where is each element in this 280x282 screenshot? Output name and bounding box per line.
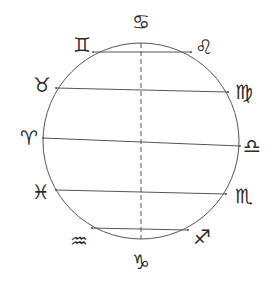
chord-taurus-virgo	[56, 88, 228, 92]
cancer-icon: ♋︎	[132, 10, 150, 34]
pisces-icon: ♓︎	[32, 180, 50, 204]
aquarius-icon: ♒︎	[70, 229, 88, 253]
chord-aquarius-sagittarius	[92, 228, 188, 230]
leo-icon: ♌︎	[195, 35, 213, 59]
chord-endpoint	[187, 229, 189, 231]
chord-endpoint	[225, 193, 227, 195]
capricorn-icon: ♑︎	[132, 250, 150, 274]
gemini-icon: ♊︎	[73, 33, 91, 57]
chord-endpoint	[55, 87, 57, 89]
virgo-icon: ♍︎	[235, 80, 253, 104]
taurus-icon: ♉︎	[33, 73, 51, 97]
chord-endpoint	[91, 227, 93, 229]
aries-icon: ♈︎	[20, 126, 38, 150]
chord-endpoint	[55, 189, 57, 191]
sagittarius-icon: ♐︎	[193, 225, 211, 249]
zodiac-diagram: ♋︎♌︎♍︎♎︎♏︎♐︎♑︎♒︎♓︎♈︎♉︎♊︎	[0, 0, 280, 282]
libra-icon: ♎︎	[243, 134, 261, 158]
scorpio-icon: ♏︎	[235, 184, 253, 208]
chord-endpoint	[42, 137, 44, 139]
chord-endpoint	[227, 91, 229, 93]
chord-endpoint	[190, 51, 192, 53]
chord-endpoint	[239, 145, 241, 147]
chord-endpoint	[92, 51, 94, 53]
